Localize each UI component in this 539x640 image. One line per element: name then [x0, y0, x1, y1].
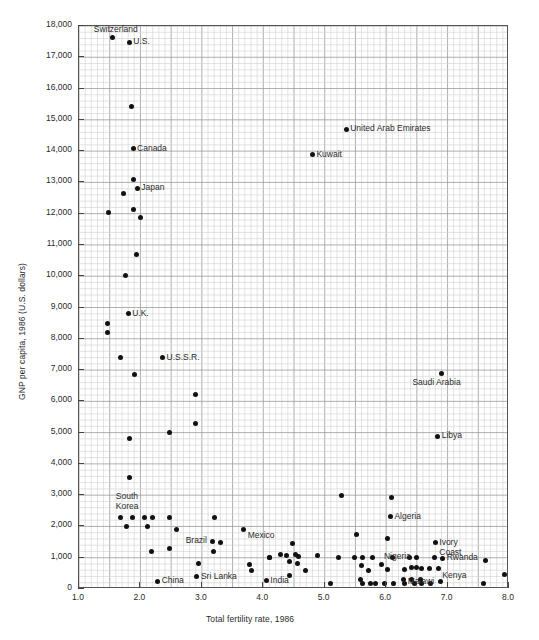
y-tick-mark — [78, 307, 84, 308]
scatter-plot-figure: GNP per capita, 1986 (U.S. dollars) Tota… — [0, 0, 539, 640]
data-point — [130, 515, 135, 520]
data-point — [481, 581, 486, 586]
x-tick-mark — [385, 582, 386, 588]
data-point — [439, 371, 444, 376]
data-point — [303, 568, 308, 573]
data-point-label: Rwanda — [447, 552, 478, 562]
y-tick-mark — [78, 588, 84, 589]
data-point — [212, 515, 217, 520]
y-tick-label: 8,000 — [26, 332, 72, 342]
y-tick-label: 17,000 — [26, 50, 72, 60]
data-point-label: Switzerland — [94, 24, 138, 34]
x-tick-mark — [508, 582, 509, 588]
data-point — [419, 566, 424, 571]
y-tick-label: 4,000 — [26, 457, 72, 467]
data-point — [241, 527, 246, 532]
y-tick-mark — [78, 275, 84, 276]
data-point — [138, 215, 143, 220]
data-point — [135, 186, 140, 191]
data-point — [132, 372, 137, 377]
x-tick-label: 6.0 — [365, 592, 405, 602]
data-point — [336, 555, 341, 560]
y-tick-mark — [78, 463, 84, 464]
data-point-label: Brazil — [186, 535, 207, 545]
data-point — [385, 536, 390, 541]
data-point — [105, 321, 110, 326]
data-point-label: Libya — [442, 430, 462, 440]
data-point-label: Saudi Arabia — [412, 377, 460, 387]
data-point-label: Mexico — [248, 530, 275, 540]
data-point — [131, 146, 136, 151]
data-point-label: Kuwait — [316, 149, 342, 159]
y-tick-label: 0 — [26, 582, 72, 592]
y-tick-label: 2,000 — [26, 519, 72, 529]
data-point-label: Malawi — [408, 576, 434, 586]
y-tick-mark — [78, 213, 84, 214]
x-tick-mark — [262, 582, 263, 588]
x-tick-label: 8.0 — [488, 592, 528, 602]
y-tick-label: 10,000 — [26, 269, 72, 279]
x-tick-mark — [139, 582, 140, 588]
data-point — [267, 555, 272, 560]
data-point-label: Japan — [141, 182, 164, 192]
data-point — [433, 540, 438, 545]
y-tick-label: 11,000 — [26, 238, 72, 248]
data-point — [373, 581, 378, 586]
data-point — [131, 177, 136, 182]
x-tick-label: 3.0 — [181, 592, 221, 602]
y-tick-mark — [78, 494, 84, 495]
data-point-label: Kenya — [442, 570, 466, 580]
y-tick-mark — [78, 181, 84, 182]
data-point — [105, 330, 110, 335]
data-point-label: Canada — [137, 143, 167, 153]
y-tick-mark — [78, 119, 84, 120]
data-point — [123, 273, 128, 278]
y-tick-mark — [78, 88, 84, 89]
data-point — [127, 40, 132, 45]
y-tick-label: 6,000 — [26, 394, 72, 404]
data-point-label: China — [162, 575, 184, 585]
y-tick-mark — [78, 369, 84, 370]
y-tick-label: 5,000 — [26, 426, 72, 436]
data-point — [211, 549, 216, 554]
y-tick-label: 1,000 — [26, 551, 72, 561]
data-point — [427, 566, 432, 571]
data-point — [284, 553, 289, 558]
data-point — [126, 311, 131, 316]
data-point-label: Sri Lanka — [201, 571, 237, 581]
data-point — [149, 549, 154, 554]
y-tick-mark — [78, 338, 84, 339]
x-tick-mark — [324, 582, 325, 588]
data-point — [432, 555, 437, 560]
data-point-label: U.K. — [132, 308, 149, 318]
y-tick-mark — [78, 25, 84, 26]
data-point — [131, 207, 136, 212]
x-tick-mark — [447, 582, 448, 588]
y-tick-mark — [78, 557, 84, 558]
data-point-label: U.S. — [133, 36, 150, 46]
data-point — [352, 555, 357, 560]
data-point — [344, 127, 349, 132]
y-tick-label: 14,000 — [26, 144, 72, 154]
data-point — [368, 581, 373, 586]
y-tick-label: 7,000 — [26, 363, 72, 373]
data-point — [145, 524, 150, 529]
data-point-label: Nigeria — [384, 551, 411, 561]
y-tick-label: 16,000 — [26, 82, 72, 92]
data-point — [389, 495, 394, 500]
y-tick-mark — [78, 56, 84, 57]
data-point — [249, 568, 254, 573]
y-tick-label: 15,000 — [26, 113, 72, 123]
y-tick-label: 18,000 — [26, 19, 72, 29]
x-tick-mark — [78, 582, 79, 588]
y-tick-label: 12,000 — [26, 207, 72, 217]
x-tick-label: 2.0 — [119, 592, 159, 602]
data-point-label: India — [270, 575, 288, 585]
data-point — [287, 559, 292, 564]
x-tick-label: 1.0 — [58, 592, 98, 602]
y-tick-label: 13,000 — [26, 175, 72, 185]
data-point-label: South Korea — [116, 491, 150, 511]
y-tick-label: 3,000 — [26, 488, 72, 498]
y-tick-mark — [78, 400, 84, 401]
x-tick-label: 7.0 — [427, 592, 467, 602]
